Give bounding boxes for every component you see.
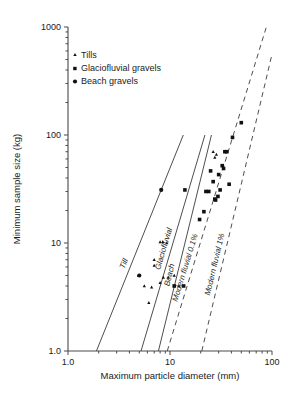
trend-line <box>167 27 266 351</box>
y-axis-title: Minimum sample size (kg) <box>11 134 22 244</box>
data-point <box>231 136 235 140</box>
legend-label-glaciofluvial: Glaciofluvial gravels <box>81 63 162 73</box>
data-points <box>137 121 243 304</box>
log-log-scatter-chart: 1.0101001.0101001000 TillGlaciofluvialBe… <box>0 0 291 407</box>
data-point <box>225 150 229 154</box>
data-point <box>147 301 150 304</box>
legend-label-tills: Tills <box>81 50 97 60</box>
data-point <box>217 173 221 177</box>
data-point <box>227 182 231 186</box>
data-point <box>159 188 163 192</box>
data-point <box>216 195 220 199</box>
data-point <box>212 150 215 153</box>
axis-titles: Maximum particle diameter (mm)Minimum sa… <box>11 134 239 381</box>
data-point <box>183 188 187 192</box>
curve-labels: TillGlaciofluvialBeachModern fluvial 0.1… <box>118 227 227 303</box>
x-tick-label: 1.0 <box>62 357 75 367</box>
legend-label-beach: Beach gravels <box>81 76 139 86</box>
data-point <box>207 190 211 194</box>
curve-label: Modern fluvial 1% <box>203 232 226 296</box>
trend-line <box>96 135 183 351</box>
figure-container: 1.0101001.0101001000 TillGlaciofluvialBe… <box>0 0 291 407</box>
data-point <box>213 156 216 159</box>
data-point <box>218 188 222 192</box>
curve-label: Till <box>118 257 130 270</box>
legend-marker-glaciofluvial <box>73 67 76 70</box>
data-point <box>198 218 202 222</box>
data-point <box>211 180 215 184</box>
x-axis-title: Maximum particle diameter (mm) <box>101 370 240 381</box>
data-point <box>137 273 141 277</box>
legend-marker-beach <box>73 79 77 83</box>
data-point <box>239 121 243 125</box>
data-point <box>209 169 213 173</box>
data-point <box>143 284 146 287</box>
legend: TillsGlaciofluvial gravelsBeach gravels <box>73 50 162 86</box>
y-tick-label: 10 <box>51 238 61 248</box>
data-point <box>150 285 153 288</box>
y-tick-label: 1.0 <box>48 346 61 356</box>
y-tick-label: 1000 <box>41 22 61 32</box>
legend-marker-tills <box>73 53 76 56</box>
data-point <box>214 198 218 202</box>
axes: 1.0101001.0101001000 <box>41 22 280 367</box>
y-tick-label: 100 <box>46 130 61 140</box>
data-point <box>222 167 226 171</box>
data-point <box>215 153 218 156</box>
x-tick-label: 100 <box>264 357 279 367</box>
x-tick-label: 10 <box>165 357 175 367</box>
data-point <box>202 210 206 214</box>
